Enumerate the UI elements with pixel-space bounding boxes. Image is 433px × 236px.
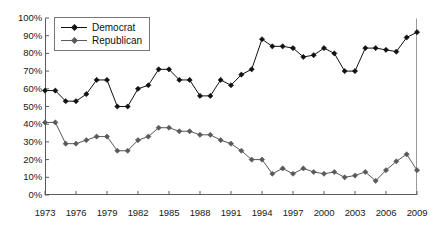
data-point-marker bbox=[342, 175, 347, 180]
data-point-marker bbox=[280, 44, 285, 49]
legend-diamond bbox=[70, 37, 77, 44]
y-axis-tick-label: 10% bbox=[2, 172, 42, 182]
data-point-marker bbox=[104, 77, 109, 82]
data-point-marker bbox=[187, 77, 192, 82]
data-point-marker bbox=[197, 93, 202, 98]
data-point-marker bbox=[311, 169, 316, 174]
data-point-marker bbox=[301, 166, 306, 171]
data-point-marker bbox=[94, 134, 99, 139]
data-point-marker bbox=[363, 45, 368, 50]
data-point-marker bbox=[146, 83, 151, 88]
data-point-marker bbox=[383, 47, 388, 52]
legend-item-republican: Republican bbox=[59, 34, 142, 47]
legend-label-republican: Republican bbox=[89, 35, 142, 46]
legend-diamond bbox=[70, 24, 77, 31]
data-point-marker bbox=[290, 171, 295, 176]
data-point-marker bbox=[332, 169, 337, 174]
y-axis-tick-label: 100% bbox=[2, 13, 42, 23]
data-point-marker bbox=[249, 67, 254, 72]
x-axis-tick-label: 1991 bbox=[221, 207, 242, 218]
y-axis-tick-label: 40% bbox=[2, 119, 42, 129]
x-axis-tick-label: 1982 bbox=[128, 207, 149, 218]
series-line bbox=[45, 122, 417, 180]
data-point-marker bbox=[63, 141, 68, 146]
x-axis-tick-label: 1973 bbox=[35, 207, 56, 218]
data-point-marker bbox=[352, 69, 357, 74]
y-axis-tick-label: 50% bbox=[2, 102, 42, 112]
x-axis-tick-label: 1997 bbox=[283, 207, 304, 218]
data-point-marker bbox=[332, 51, 337, 56]
x-axis: 1973197619791982198519881991199419972000… bbox=[45, 199, 417, 219]
x-axis-tick-label: 1988 bbox=[190, 207, 211, 218]
y-axis-tick-label: 60% bbox=[2, 84, 42, 94]
x-axis-tick-label: 2003 bbox=[345, 207, 366, 218]
y-axis-tick-label: 30% bbox=[2, 137, 42, 147]
y-axis-tick-label: 70% bbox=[2, 66, 42, 76]
data-point-marker bbox=[125, 104, 130, 109]
y-axis-tick-label: 20% bbox=[2, 155, 42, 165]
legend-marker-diamond-icon bbox=[59, 22, 89, 33]
data-point-marker bbox=[73, 141, 78, 146]
data-point-marker bbox=[115, 104, 120, 109]
x-axis-tick-label: 1985 bbox=[159, 207, 180, 218]
data-point-marker bbox=[373, 45, 378, 50]
data-point-marker bbox=[342, 69, 347, 74]
x-axis-tick-label: 1976 bbox=[66, 207, 87, 218]
data-point-marker bbox=[84, 138, 89, 143]
data-point-marker bbox=[414, 168, 419, 173]
x-axis-tick-label: 2000 bbox=[314, 207, 335, 218]
data-point-marker bbox=[135, 86, 140, 91]
data-point-marker bbox=[156, 67, 161, 72]
line-chart: 0%10%20%30%40%50%60%70%80%90%100% 197319… bbox=[0, 0, 433, 236]
data-point-marker bbox=[197, 132, 202, 137]
series-republican bbox=[42, 120, 419, 184]
data-point-marker bbox=[414, 30, 419, 35]
x-axis-tick-label: 1994 bbox=[252, 207, 273, 218]
data-point-marker bbox=[166, 125, 171, 130]
legend-label-democrat: Democrat bbox=[89, 22, 135, 33]
legend-marker-diamond-icon bbox=[59, 35, 89, 46]
y-axis: 0%10%20%30%40%50%60%70%80%90%100% bbox=[0, 0, 42, 236]
data-point-marker bbox=[352, 173, 357, 178]
y-axis-tick-label: 90% bbox=[2, 31, 42, 41]
data-point-marker bbox=[177, 129, 182, 134]
data-point-marker bbox=[218, 138, 223, 143]
y-axis-tick-label: 0% bbox=[2, 190, 42, 200]
x-axis-tick-label: 1979 bbox=[97, 207, 118, 218]
data-point-marker bbox=[280, 166, 285, 171]
data-point-marker bbox=[218, 77, 223, 82]
x-axis-tick-label: 2009 bbox=[407, 207, 428, 218]
data-point-marker bbox=[53, 120, 58, 125]
data-point-marker bbox=[208, 93, 213, 98]
legend-item-democrat: Democrat bbox=[59, 21, 142, 34]
chart-legend: Democrat Republican bbox=[54, 17, 150, 51]
x-axis-tick-label: 2006 bbox=[376, 207, 397, 218]
data-point-marker bbox=[187, 129, 192, 134]
data-point-marker bbox=[321, 171, 326, 176]
y-axis-tick-label: 80% bbox=[2, 48, 42, 58]
data-point-marker bbox=[208, 132, 213, 137]
